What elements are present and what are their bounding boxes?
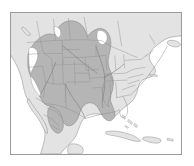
map-canvas — [11, 13, 181, 154]
map-frame — [10, 12, 182, 155]
range-map-figure: North America species distribution range… — [0, 0, 194, 166]
